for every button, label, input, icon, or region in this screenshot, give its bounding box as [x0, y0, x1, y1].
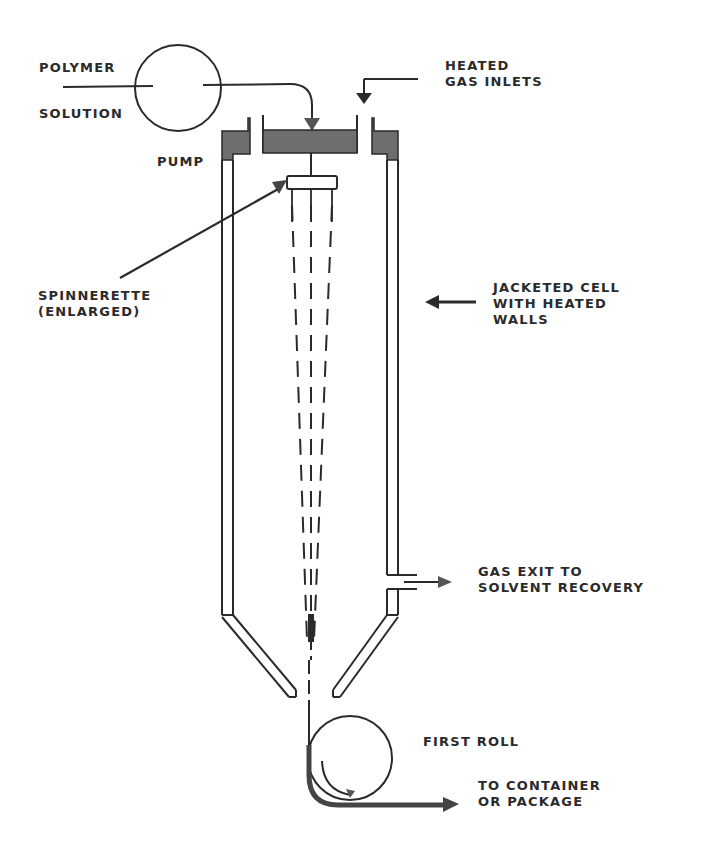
fiber-bundle — [309, 615, 313, 745]
cell-wall-right — [333, 160, 398, 697]
label-gas-exit-line2: SOLVENT RECOVERY — [478, 580, 644, 596]
label-jacketed-line2: WITH HEATED — [493, 296, 620, 312]
jacketed-cell-arrow-icon — [425, 295, 476, 309]
label-heated-gas-inlets: HEATED GAS INLETS — [445, 58, 543, 90]
label-pump: PUMP — [157, 154, 204, 170]
label-container-line2: OR PACKAGE — [478, 794, 601, 810]
label-heated-gas-line1: HEATED — [445, 58, 543, 74]
label-solution: SOLUTION — [39, 106, 123, 122]
gas-inlet-arrow-icon — [356, 79, 418, 104]
label-gas-exit-line1: GAS EXIT TO — [478, 564, 644, 580]
cell-wall-left — [222, 160, 296, 697]
label-jacketed-line1: JACKETED CELL — [493, 280, 620, 296]
first-roll-icon — [308, 716, 459, 812]
label-to-container: TO CONTAINER OR PACKAGE — [478, 778, 601, 810]
label-jacketed-line3: WALLS — [493, 312, 620, 328]
label-first-roll: FIRST ROLL — [423, 734, 519, 750]
fiber-filaments — [292, 205, 332, 640]
label-container-line1: TO CONTAINER — [478, 778, 601, 794]
label-spinnerette: SPINNERETTE (ENLARGED) — [38, 288, 151, 320]
label-gas-exit: GAS EXIT TO SOLVENT RECOVERY — [478, 564, 644, 596]
gas-exit-duct — [387, 575, 452, 589]
label-spinnerette-line1: SPINNERETTE — [38, 288, 151, 304]
label-jacketed-cell: JACKETED CELL WITH HEATED WALLS — [493, 280, 620, 328]
label-spinnerette-line2: (ENLARGED) — [38, 304, 151, 320]
label-polymer: POLYMER — [39, 60, 115, 76]
label-heated-gas-line2: GAS INLETS — [445, 74, 543, 90]
spinnerette-leader — [120, 180, 287, 278]
dry-spinning-diagram — [0, 0, 728, 854]
